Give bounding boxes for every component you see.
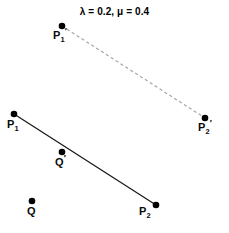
point-p1 (11, 111, 18, 118)
figure-plot-area (0, 0, 229, 233)
point-label-p2: P2 (139, 206, 151, 218)
point-label-p1: P1 (7, 119, 19, 131)
label-base: Q (27, 205, 36, 217)
label-subscript: 1 (15, 124, 19, 133)
label-prime: ′ (64, 153, 66, 163)
point-q (29, 198, 36, 205)
label-base: P (139, 205, 146, 217)
dashed-segment-p1prime-p2prime (62, 26, 205, 118)
point-label-p1-prime: P1′ (53, 30, 67, 42)
label-base: Q (55, 156, 64, 168)
label-base: P (53, 29, 60, 41)
label-base: P (198, 121, 205, 133)
solid-segment-p1-p2 (14, 114, 156, 205)
segments-layer (14, 26, 205, 205)
points-layer (11, 23, 209, 209)
label-base: P (7, 118, 14, 130)
label-subscript: 2 (147, 211, 151, 220)
point-label-q-prime: Q′ (55, 157, 66, 169)
label-prime: ′ (210, 118, 212, 128)
label-prime: ′ (65, 26, 67, 36)
figure-canvas: λ = 0.2, μ = 0.4 P1′ P2′ P1 Q′ P2 Q (0, 0, 229, 233)
point-label-q: Q (27, 206, 36, 217)
point-p2 (153, 202, 160, 209)
point-label-p2-prime: P2′ (198, 122, 212, 134)
